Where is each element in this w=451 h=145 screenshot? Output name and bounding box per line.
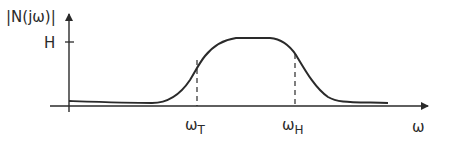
y-axis-label: |N(jω)| xyxy=(6,8,56,26)
x-axis-label: ω xyxy=(412,118,425,136)
omega-h-symbol: ω xyxy=(282,116,295,134)
frequency-response-diagram: |N(jω)| H ωT ωH ω xyxy=(0,0,451,145)
omega-t-symbol: ω xyxy=(185,116,198,134)
omega-h-subscript: H xyxy=(295,123,304,137)
omega-t-label: ωT xyxy=(185,116,206,137)
y-tick-label: H xyxy=(44,34,55,52)
response-curve xyxy=(69,38,388,103)
omega-t-subscript: T xyxy=(197,123,206,137)
omega-h-label: ωH xyxy=(282,116,304,137)
